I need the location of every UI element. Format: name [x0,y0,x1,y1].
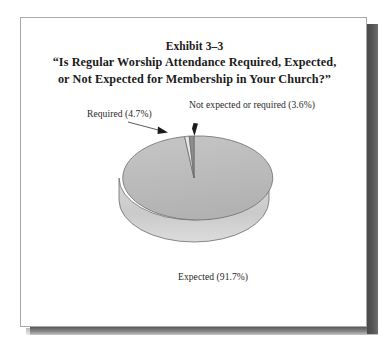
page-shadow-bottom [30,327,378,335]
slice-label-expected: Expected (91.7%) [178,271,248,282]
screenshot-canvas: Exhibit 3–3 “Is Regular Worship Attendan… [0,0,392,350]
slice-label-required: Required (4.7%) [87,108,152,119]
pie-slice-expected-top [123,136,273,220]
not-expected-pointer-arrow [192,123,198,136]
slice-label-not-expected: Not expected or required (3.6%) [189,99,315,110]
page-shadow-right [367,24,378,334]
required-leader-line [128,122,168,134]
pie-chart: Required (4.7%) Not expected or required… [21,18,368,328]
page-sheet: Exhibit 3–3 “Is Regular Worship Attendan… [20,17,367,327]
